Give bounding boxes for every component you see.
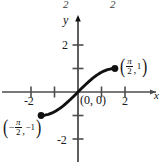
left-endpoint-annotation: ( − π 2 , −1 ): [2, 118, 42, 137]
y-value-right: 1: [137, 62, 142, 71]
graph-figure: 2 2 y x -2 2 2: [0, 0, 164, 164]
fraction-numerator-left: π: [15, 118, 22, 127]
y-axis-label: y: [63, 14, 68, 26]
origin-annotation: (0, 0): [80, 94, 106, 106]
paren-close-left: ): [36, 119, 41, 136]
paren-close-right: ): [142, 58, 147, 75]
fraction-pi-over-2-left: π 2: [15, 118, 22, 137]
x-axis-label: x: [154, 90, 159, 101]
fraction-numerator-right: π: [126, 57, 133, 66]
fraction-pi-over-2-right: π 2: [126, 57, 133, 76]
x-tick-label--2: -2: [24, 95, 33, 107]
right-endpoint-annotation: ( π 2 , 1 ): [119, 57, 148, 76]
y-tick-label--2: -2: [57, 134, 66, 146]
y-axis-arrowhead: [75, 15, 81, 22]
y-tick-label-2: 2: [62, 39, 68, 51]
fraction-denominator-right: 2: [126, 67, 133, 76]
plot-canvas: [0, 0, 164, 164]
y-value-left: −1: [25, 123, 35, 132]
fraction-denominator-left: 2: [15, 128, 22, 137]
endpoint-marker-right: [112, 65, 119, 72]
paren-open-right: (: [120, 58, 125, 75]
x-tick-label-2: 2: [122, 95, 128, 107]
paren-open-left: (: [3, 119, 8, 136]
